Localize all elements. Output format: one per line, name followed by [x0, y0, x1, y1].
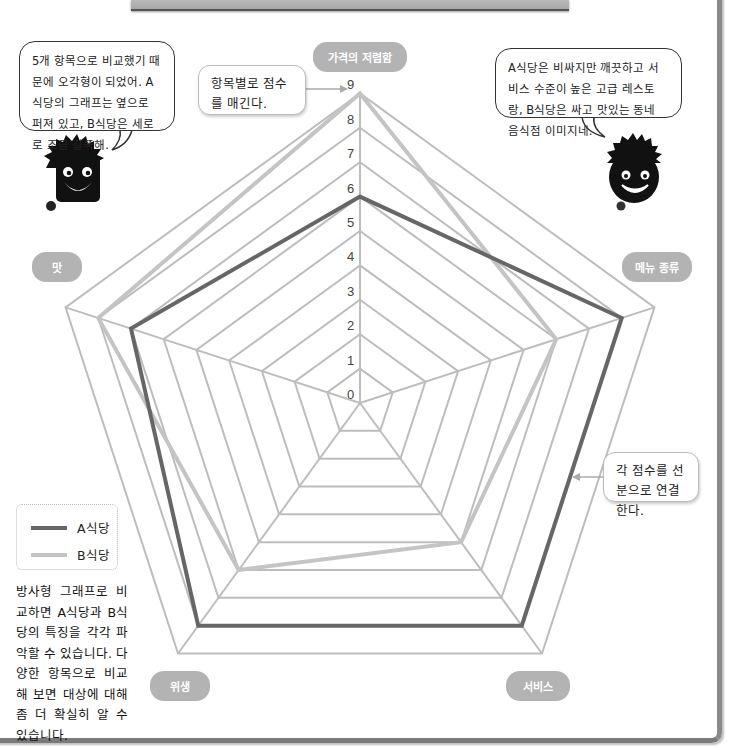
score-callout: 항목별로 점수를 매긴다. — [198, 65, 306, 115]
tick-label: 2 — [347, 318, 354, 333]
tick-label: 4 — [347, 249, 354, 264]
tick-label: 5 — [347, 215, 354, 230]
right-character-icon — [607, 133, 662, 211]
series-a — [131, 197, 622, 626]
right-speech-bubble: A식당은 비싸지만 깨끗하고 서비스 수준이 높은 고급 레스토랑, B식당은 … — [495, 48, 682, 118]
axis-label-hygiene: 위생 — [150, 671, 210, 701]
series-b — [98, 93, 556, 570]
line-arrowhead — [572, 473, 580, 481]
legend-item-b: B식당 — [31, 545, 110, 564]
line-callout: 각 점수를 선분으로 연결한다. — [603, 452, 699, 502]
tick-label: 0 — [347, 387, 354, 402]
axis-spoke — [178, 403, 360, 653]
legend: A식당 B식당 — [16, 504, 118, 570]
axis-spoke — [360, 403, 542, 653]
tick-label: 7 — [347, 146, 354, 161]
legend-item-a: A식당 — [31, 518, 110, 537]
tick-label: 8 — [347, 112, 354, 127]
axis-label-menu: 메뉴 종류 — [622, 252, 692, 282]
legend-line-b — [31, 553, 67, 557]
tick-label: 3 — [347, 284, 354, 299]
tick-label: 9 — [347, 77, 354, 92]
left-speech-bubble: 5개 항목으로 비교했기 때문에 오각형이 되었어. A식당의 그래프는 옆으로… — [19, 41, 175, 131]
axis-label-taste: 맛 — [32, 252, 82, 282]
description-text: 방사형 그래프로 비교하면 A식당과 B식당의 특징을 각각 파악할 수 있습니… — [16, 582, 128, 746]
tick-label: 1 — [347, 353, 354, 368]
axis-label-service: 서비스 — [506, 671, 570, 701]
tick-label: 6 — [347, 181, 354, 196]
axis-label-price: 가격의 저렴함 — [313, 42, 407, 72]
legend-label-a: A식당 — [77, 518, 110, 537]
legend-line-a — [31, 526, 67, 530]
legend-label-b: B식당 — [77, 545, 110, 564]
